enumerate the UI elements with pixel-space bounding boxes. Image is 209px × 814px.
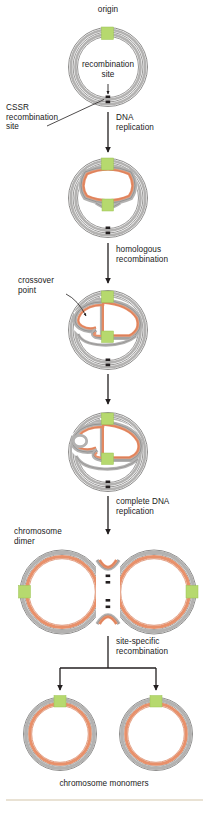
origin-marker-top bbox=[102, 291, 114, 303]
label-crossover-point: crossover point bbox=[18, 276, 54, 295]
origin-marker-left bbox=[19, 586, 31, 599]
origin-marker-bottom bbox=[102, 199, 114, 211]
origin-marker-top bbox=[102, 413, 114, 425]
stage-5-chromosome-dimer bbox=[19, 550, 199, 634]
stage-2-theta-replication bbox=[69, 158, 148, 238]
origin-marker-top bbox=[102, 158, 114, 170]
origin-marker-bottom bbox=[102, 453, 114, 465]
label-origin: origin bbox=[78, 5, 138, 15]
origin-marker-right bbox=[186, 586, 198, 599]
label-step-dna-replication: DNA replication bbox=[116, 113, 154, 132]
stage-4-crossover-resolved bbox=[69, 413, 148, 492]
label-chromosome-monomers: chromosome monomers bbox=[24, 779, 184, 789]
origin-marker-bottom bbox=[102, 331, 114, 343]
label-step-complete-dna-replication: complete DNA replication bbox=[116, 497, 169, 516]
label-cssr-recombination-site: CSSR recombination site bbox=[6, 103, 58, 132]
stage-7-monomer-right bbox=[120, 696, 193, 771]
origin-marker bbox=[102, 27, 114, 40]
label-chromosome-dimer: chromosome dimer bbox=[14, 527, 62, 546]
origin-marker bbox=[150, 696, 162, 708]
origin-marker bbox=[54, 696, 66, 708]
label-step-site-specific-recombination: site-specific recombination bbox=[116, 637, 168, 656]
label-step-homologous-recombination: homologous recombination bbox=[116, 245, 168, 264]
label-recombination-site: recombination site bbox=[58, 60, 158, 79]
stage-6-monomer-left bbox=[24, 696, 97, 771]
stage-3-crossover bbox=[66, 291, 148, 370]
